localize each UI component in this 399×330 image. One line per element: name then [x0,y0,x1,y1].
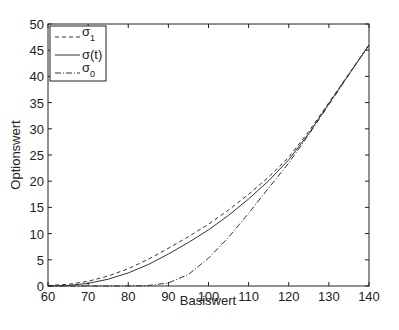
y-axis-label: Optionswert [8,120,23,190]
legend: σ1 σ(t) σ0 [50,24,106,81]
x-tick-label: 70 [81,289,95,304]
x-axis-label: Basiswert [180,293,237,308]
y-tick-label: 10 [30,227,44,242]
chart: 6070809010011012013014005101520253035404… [0,0,399,330]
x-tick-label: 130 [318,289,340,304]
y-tick-label: 15 [30,200,44,215]
x-tick-label: 80 [121,289,135,304]
x-tick-label: 140 [358,289,380,304]
y-tick-label: 0 [37,279,44,294]
y-tick-label: 20 [30,174,44,189]
x-tick-label: 120 [278,289,300,304]
y-tick-label: 45 [30,43,44,58]
y-tick-label: 50 [30,17,44,32]
y-tick-label: 25 [30,148,44,163]
y-tick-label: 5 [37,253,44,268]
y-tick-label: 30 [30,122,44,137]
x-tick-label: 110 [238,289,259,304]
y-tick-label: 40 [30,69,44,84]
y-tick-label: 35 [30,96,44,111]
x-tick-label: 90 [161,289,175,304]
